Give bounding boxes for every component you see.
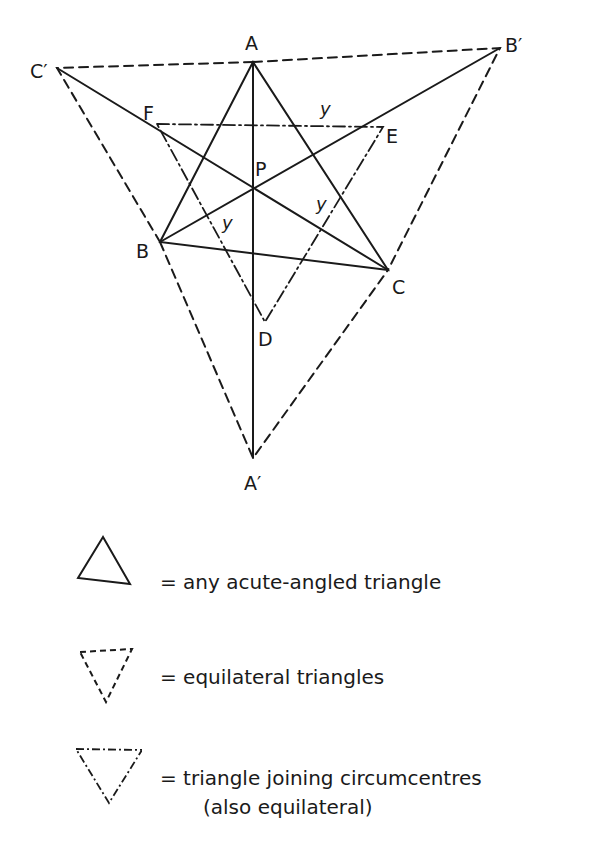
triangle-ABC [160,62,388,270]
label-y-right: y [316,195,327,213]
label-D: D [258,330,273,349]
legend-text-equilateral: = equilateral triangles [160,665,384,689]
label-B-prime: B′ [505,36,522,55]
legend-dashdot-triangle-icon [72,745,142,809]
legend-text-also-equilateral: (also equilateral) [203,795,373,819]
label-y-left: y [222,214,233,232]
label-y-top: y [320,100,331,118]
label-C: C [392,278,405,297]
triangle-DEF [157,124,383,322]
legend-text-acute: = any acute-angled triangle [160,570,441,594]
geometry-figure [0,0,591,862]
equilateral-on-BC [160,242,388,458]
line-C-Cprime [57,68,388,270]
label-C-prime: C′ [30,62,48,81]
legend-dashed-triangle-icon [76,646,146,710]
legend-text-circumcentres: = triangle joining circumcentres [160,766,482,790]
legend-solid-triangle-icon [74,534,144,598]
label-A: A [245,34,258,53]
equilateral-on-AC [253,48,500,270]
label-P: P [255,160,266,179]
label-E: E [386,127,398,146]
label-A-prime: A′ [244,474,261,493]
label-B: B [136,242,149,261]
label-F: F [143,104,154,123]
